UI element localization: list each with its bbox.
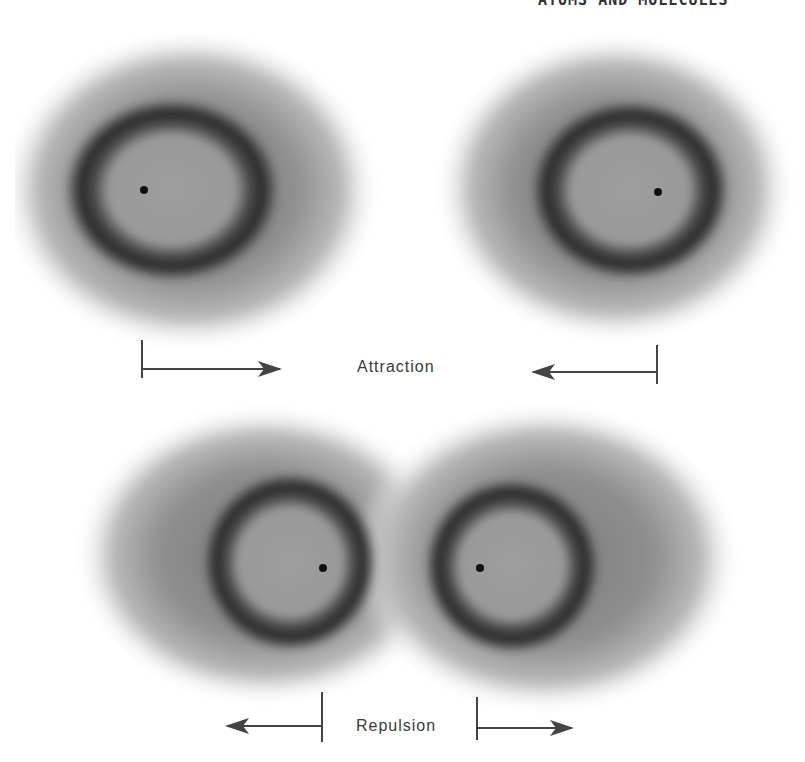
attraction-right-atom [435, 33, 795, 343]
attraction-label: Attraction [357, 358, 435, 376]
electron-cloud-diagram [0, 0, 805, 762]
attraction-left-atom [0, 30, 380, 350]
attraction-left-nucleus [140, 186, 148, 194]
repulsion-right-atom [424, 478, 600, 654]
attraction-right-nucleus [654, 188, 662, 196]
repulsion-left-nucleus [319, 564, 327, 572]
repulsion-right-nucleus [476, 564, 484, 572]
repulsion-molecule-halo [75, 403, 740, 713]
repulsion-left-atom [202, 472, 378, 652]
attraction-arrow-left [533, 345, 657, 384]
repulsion-label: Repulsion [356, 717, 436, 735]
